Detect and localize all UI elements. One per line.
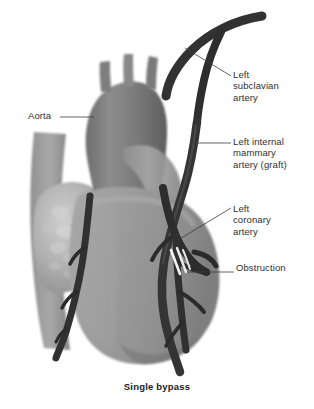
figure-caption: Single bypass	[0, 381, 314, 392]
label-left-subclavian-artery: Left subclavian artery	[233, 69, 279, 103]
brachiocephalic-trunk	[100, 61, 112, 92]
label-left-internal-mammary-artery: Left internal mammary artery (graft)	[233, 136, 287, 170]
label-obstruction: Obstruction	[236, 262, 286, 273]
label-aorta: Aorta	[28, 110, 51, 121]
label-left-coronary-artery: Left coronary artery	[233, 203, 271, 237]
left-subclavian-root	[146, 56, 158, 90]
heart-anatomy	[30, 54, 219, 364]
left-common-carotid	[123, 54, 134, 87]
